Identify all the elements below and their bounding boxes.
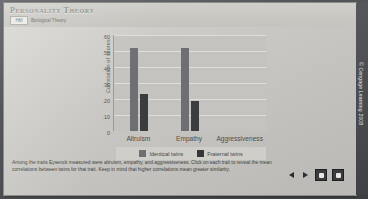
plot-area [113, 35, 266, 131]
x-axis-categories: AltruismEmpathyAggressiveness [113, 135, 265, 142]
y-tick-label: .30 [103, 82, 111, 88]
y-tick-label: 0 [107, 130, 110, 136]
chart-stage: Correlation of scores .60.50.40.30.20.10… [66, 29, 288, 159]
bar [130, 48, 138, 131]
bar [181, 48, 189, 131]
tab-biological-theory[interactable]: Biological Theory [31, 18, 66, 23]
y-tick-label: .20 [103, 98, 111, 104]
bar-group[interactable] [165, 35, 216, 131]
y-tick-label: .10 [103, 114, 111, 120]
slide-header: Personality Theory HM Biological Theory [4, 3, 356, 27]
page-title: Personality Theory [10, 6, 94, 15]
category-label[interactable]: Empathy [164, 135, 215, 142]
category-label[interactable]: Altruism [113, 135, 164, 142]
y-axis-ticks: .60.50.40.30.20.100 [90, 31, 110, 131]
stop-square-icon[interactable] [315, 169, 327, 181]
copyright-rail: © Cengage Learning 2008 [356, 3, 368, 195]
forward-square-icon[interactable] [332, 169, 344, 181]
y-tick-label: .50 [103, 50, 111, 56]
bar-group[interactable] [215, 35, 266, 131]
legend-label: Fraternal twins [207, 151, 242, 157]
legend-swatch [197, 150, 204, 157]
bar-group[interactable] [114, 35, 165, 131]
legend-item: Identical twins [139, 150, 183, 157]
chart-legend: Identical twinsFraternal twins [116, 147, 266, 160]
bar-groups [114, 35, 266, 131]
bar [140, 94, 148, 131]
legend-label: Identical twins [149, 151, 183, 157]
slide-viewer: Personality Theory HM Biological Theory … [0, 0, 368, 199]
play-triangle-icon[interactable] [301, 171, 310, 180]
copyright-text: © Cengage Learning 2008 [358, 62, 364, 134]
y-tick-label: .40 [103, 66, 111, 72]
bar [191, 101, 199, 131]
playback-controls [287, 169, 344, 181]
previous-triangle-icon[interactable] [287, 171, 296, 180]
publisher-badge: HM [10, 16, 28, 25]
legend-swatch [139, 150, 146, 157]
category-label[interactable]: Aggressiveness [214, 135, 265, 142]
caption-text: Among the traits Eysenck measured were a… [12, 160, 284, 173]
breadcrumb: HM Biological Theory [10, 16, 66, 25]
slide-frame: Personality Theory HM Biological Theory … [4, 3, 356, 195]
y-tick-label: .60 [103, 34, 111, 40]
legend-item: Fraternal twins [197, 150, 242, 157]
